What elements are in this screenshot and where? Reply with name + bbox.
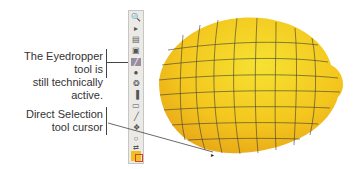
- lemon-mesh-artwork: ▸: [0, 0, 357, 169]
- direct-selection-cursor-icon: ▸: [211, 152, 214, 158]
